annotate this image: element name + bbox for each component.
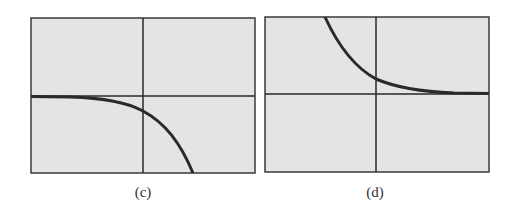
graph-c-plot bbox=[30, 17, 256, 174]
caption-d: (d) bbox=[355, 184, 395, 201]
graph-d-plot bbox=[264, 16, 490, 173]
graph-panel-c bbox=[30, 17, 256, 174]
graph-panel-d bbox=[264, 16, 490, 173]
caption-c: (c) bbox=[123, 184, 163, 201]
